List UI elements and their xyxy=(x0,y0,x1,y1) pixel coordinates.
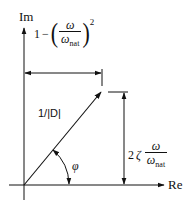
magnitude-vector xyxy=(24,92,101,185)
ratio-denominator: ωnat xyxy=(59,31,81,48)
real-part-formula: 1 − ( ω ωnat ) 2 xyxy=(34,19,94,48)
formula-constant: 1 xyxy=(34,28,40,40)
real-axis-label: Re xyxy=(168,178,182,191)
exponent: 2 xyxy=(90,18,95,27)
formula-coefficient: 2 xyxy=(128,149,134,161)
imag-part-formula: 2 ζ ω ωnat xyxy=(128,140,168,169)
formula-minus: − xyxy=(42,28,49,40)
frequency-ratio: ω ωnat xyxy=(59,19,81,48)
ratio-denominator: ωnat xyxy=(145,152,167,169)
zeta-symbol: ζ xyxy=(136,149,141,161)
angle-label: φ xyxy=(72,160,79,172)
ratio-numerator: ω xyxy=(150,140,162,152)
ratio-numerator: ω xyxy=(64,19,76,31)
open-paren: ( xyxy=(51,20,58,46)
frequency-ratio: ω ωnat xyxy=(145,140,167,169)
imaginary-axis-label: Im xyxy=(19,10,33,23)
magnitude-label: 1/|D| xyxy=(38,108,61,119)
angle-arc xyxy=(53,150,69,184)
close-paren: ) xyxy=(82,20,89,46)
